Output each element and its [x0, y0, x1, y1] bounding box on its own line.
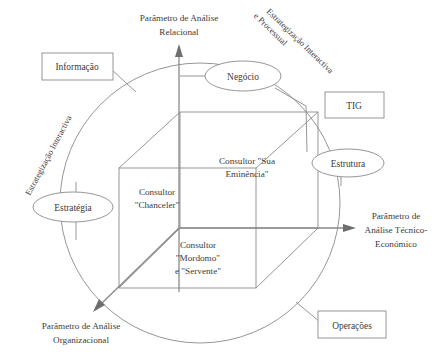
- connector-informacao: [112, 70, 136, 92]
- axis-organizacional-line: [93, 228, 179, 312]
- svg-text:Relacional: Relacional: [159, 27, 199, 37]
- connectors: [76, 70, 341, 322]
- diagram-svg: Negócio Estrutura Estratégia Informação …: [0, 0, 437, 364]
- svg-text:Estrategização Interactiva: Estrategização Interactiva: [265, 6, 336, 75]
- ellipse-negocio-label: Negócio: [227, 72, 259, 82]
- svg-text:e "Servente": e "Servente": [175, 266, 221, 276]
- svg-text:Organizacional: Organizacional: [53, 335, 109, 345]
- ellipse-estrategia-label: Estratégia: [54, 203, 92, 213]
- cube-edge-br: [256, 228, 318, 288]
- cube-label-left: Consultor "Chanceler": [135, 187, 180, 210]
- svg-text:Parâmetro de Análise: Parâmetro de Análise: [140, 13, 219, 23]
- axis-organizacional-label: Parâmetro de Análise Organizacional: [42, 321, 121, 345]
- cube-edge-bl: [119, 228, 180, 288]
- cube-label-top: Consultor "Sua Eminência": [219, 156, 275, 179]
- connector-negocio-tig: [275, 88, 306, 106]
- cube-label-front: Consultor "Mordomo" e "Servente": [175, 240, 221, 276]
- svg-text:Estrategização Interactiva: Estrategização Interactiva: [23, 114, 74, 197]
- svg-text:Consultor "Sua: Consultor "Sua: [219, 156, 275, 166]
- svg-text:Eminência": Eminência": [225, 169, 268, 179]
- svg-text:Económico: Económico: [375, 239, 417, 249]
- diagram-canvas: Negócio Estrutura Estratégia Informação …: [0, 0, 437, 364]
- box-informacao-label: Informação: [55, 62, 99, 72]
- svg-text:Análise Técnico-: Análise Técnico-: [365, 225, 428, 235]
- axis-relational-arrowhead: [175, 44, 183, 57]
- svg-text:Parâmetro de: Parâmetro de: [372, 211, 421, 221]
- axis-relational-label: Parâmetro de Análise Relacional: [140, 13, 219, 37]
- ellipse-estrutura-label: Estrutura: [331, 159, 366, 169]
- axis-tecnico-arrowhead: [343, 224, 356, 232]
- svg-text:Consultor: Consultor: [139, 187, 175, 197]
- axis-organizacional-arrowhead: [93, 299, 105, 312]
- box-operacoes-label: Operações: [332, 321, 372, 331]
- svg-text:"Chanceler": "Chanceler": [135, 200, 180, 210]
- svg-text:Consultor: Consultor: [180, 240, 216, 250]
- axis-tecnico-label: Parâmetro de Análise Técnico- Económico: [365, 211, 428, 249]
- svg-text:"Mordomo": "Mordomo": [176, 253, 221, 263]
- box-tig-label: TIG: [346, 101, 362, 111]
- rotated-label-left: Estrategização Interactiva: [23, 114, 74, 197]
- connector-operacoes: [296, 302, 320, 322]
- cube-edge-tl: [119, 112, 180, 168]
- svg-text:Parâmetro de Análise: Parâmetro de Análise: [42, 321, 121, 331]
